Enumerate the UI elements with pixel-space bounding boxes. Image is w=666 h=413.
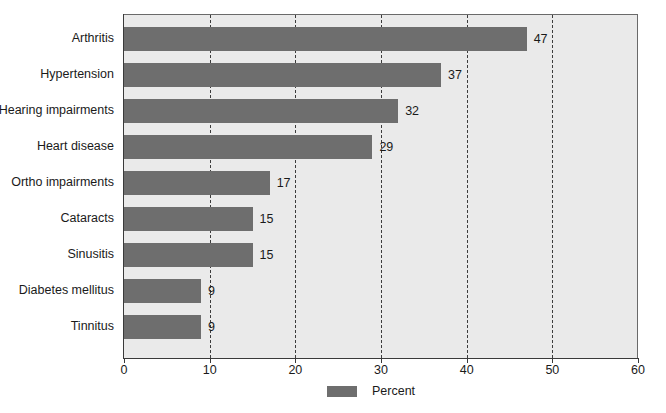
bar-value-label: 17 <box>277 177 291 190</box>
category-label: Hearing impairments <box>0 104 114 117</box>
bar-value-label: 47 <box>534 33 548 46</box>
category-label: Hypertension <box>40 68 114 81</box>
bar-value-label: 15 <box>260 249 274 262</box>
tick-label-0: 0 <box>121 364 128 377</box>
y-axis-line <box>123 14 124 359</box>
category-label: Cataracts <box>61 212 115 225</box>
bar-value-label: 32 <box>405 105 419 118</box>
category-label: Tinnitus <box>71 320 114 333</box>
tick-label-10: 10 <box>203 364 217 377</box>
tick-label-30: 30 <box>374 364 388 377</box>
bar <box>124 171 270 195</box>
x-axis-tick-labels: 0102030405060 <box>124 364 638 382</box>
bar <box>124 243 253 267</box>
gridline-40 <box>467 15 468 358</box>
plot-area: 4737322917151599 <box>124 14 638 358</box>
bar <box>124 63 441 87</box>
bar-value-label: 29 <box>379 141 393 154</box>
bar <box>124 27 527 51</box>
tick-label-20: 20 <box>288 364 302 377</box>
bar-value-label: 15 <box>260 213 274 226</box>
bar <box>124 135 372 159</box>
bar <box>124 207 253 231</box>
tick-label-60: 60 <box>631 364 645 377</box>
legend-swatch-percent <box>327 386 357 397</box>
bar <box>124 99 398 123</box>
category-label: Sinusitis <box>67 248 114 261</box>
tick-label-50: 50 <box>545 364 559 377</box>
bar-value-label: 37 <box>448 69 462 82</box>
category-axis-labels: ArthritisHypertensionHearing impairments… <box>0 14 119 358</box>
bar <box>124 279 201 303</box>
chart-legend: Percent <box>327 385 415 398</box>
legend-label-percent: Percent <box>372 385 415 398</box>
bar-chart: ArthritisHypertensionHearing impairments… <box>0 0 666 413</box>
tick-label-40: 40 <box>460 364 474 377</box>
bar-value-label: 9 <box>208 285 215 298</box>
category-label: Arthritis <box>72 32 114 45</box>
category-label: Diabetes mellitus <box>19 284 114 297</box>
category-label: Ortho impairments <box>11 176 114 189</box>
category-label: Heart disease <box>37 140 114 153</box>
bar <box>124 315 201 339</box>
gridline-50 <box>552 15 553 358</box>
bar-value-label: 9 <box>208 321 215 334</box>
